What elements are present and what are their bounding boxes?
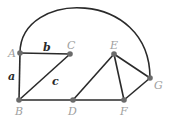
node-label-E: E [109,39,118,52]
node-label-A: A [7,47,16,60]
edge-label-c: c [52,75,59,88]
edge-E-G [114,54,150,78]
edge-D-E [73,54,114,100]
labels-group: ABCDEFGbac [7,39,163,118]
edge-label-b: b [43,41,51,54]
node-label-D: D [67,105,77,118]
edge-B-C [19,54,70,100]
node-label-C: C [67,39,76,52]
edges-group [19,53,150,100]
node-A [17,50,23,56]
edge-E-F [114,54,124,100]
node-C [67,51,73,57]
node-label-B: B [14,105,23,118]
node-D [70,97,76,103]
edge-A-B [19,53,20,100]
node-F [121,97,127,103]
nodes-group [16,50,153,103]
node-E [111,51,117,57]
node-label-F: F [119,105,128,118]
edge-F-G [124,78,150,100]
edge-label-a: a [8,70,15,83]
edge-A-G-arc [20,8,150,78]
node-label-G: G [154,79,163,92]
graph-diagram: ABCDEFGbac [0,0,169,119]
node-G [147,75,153,81]
node-B [16,97,22,103]
